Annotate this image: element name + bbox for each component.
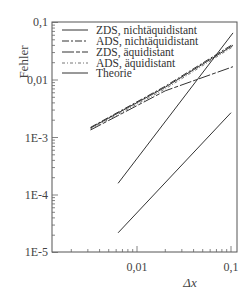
legend-label: Theorie: [96, 67, 132, 79]
y-tick-label-1e-5: 1E-5: [25, 245, 48, 259]
y-axis-title: Fehler: [16, 45, 31, 79]
x-tick-label-0.1: 0,1: [224, 260, 239, 274]
y-tick-label-1e-4: 1E-4: [25, 188, 48, 202]
x-tick-label-0.01: 0,01: [127, 260, 148, 274]
x-axis-title: Δx: [182, 275, 197, 290]
y-tick-label-1e-3: 1E-3: [25, 131, 48, 145]
y-axis-ticks: [52, 23, 58, 253]
legend: ZDS, nichtäquidistant ADS, nichtäquidist…: [62, 24, 199, 79]
x-axis-ticks: [71, 246, 231, 252]
error-convergence-chart: 0,1 0,01 1E-3 1E-4 1E-5 0,01 0,1 Fehler …: [0, 0, 252, 292]
series-line-5: [118, 113, 231, 233]
y-tick-label-0.1: 0,1: [33, 15, 48, 29]
